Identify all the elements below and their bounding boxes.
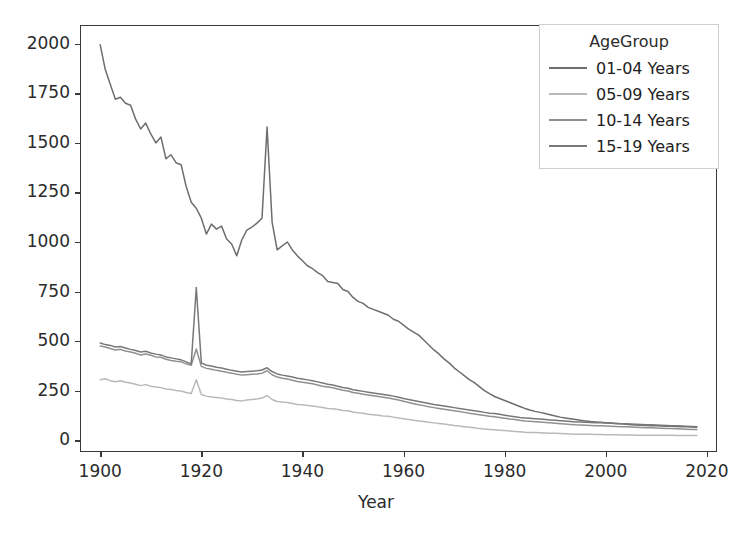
legend-item: 05-09 Years	[549, 81, 709, 107]
line-series-3	[100, 288, 697, 427]
figure-title	[0, 0, 752, 6]
x-tick-label: 1960	[364, 461, 444, 481]
legend-item-label: 10-14 Years	[596, 111, 690, 130]
x-tick-mark	[302, 452, 303, 457]
y-tick-label: 500	[0, 330, 70, 350]
y-tick-mark	[75, 192, 80, 193]
y-tick-label: 1250	[0, 181, 70, 201]
y-tick-label: 0	[0, 429, 70, 449]
x-tick-label: 1940	[262, 461, 342, 481]
y-tick-mark	[75, 93, 80, 94]
x-tick-mark	[707, 452, 708, 457]
x-tick-mark	[201, 452, 202, 457]
x-tick-mark	[100, 452, 101, 457]
y-tick-mark	[75, 242, 80, 243]
legend-item-label: 05-09 Years	[596, 85, 690, 104]
legend-item-label: 15-19 Years	[596, 137, 690, 156]
y-tick-mark	[75, 341, 80, 342]
legend-item-label: 01-04 Years	[596, 59, 690, 78]
y-tick-label: 1500	[0, 132, 70, 152]
y-tick-mark	[75, 440, 80, 441]
chart-legend: AgeGroup 01-04 Years05-09 Years10-14 Yea…	[539, 24, 719, 169]
x-tick-mark	[505, 452, 506, 457]
y-tick-mark	[75, 143, 80, 144]
legend-line-swatch	[549, 93, 587, 95]
legend-item: 10-14 Years	[549, 107, 709, 133]
chart-figure: 025050075010001250150017502000 190019201…	[0, 0, 752, 534]
x-tick-label: 2000	[566, 461, 646, 481]
line-series-1	[100, 379, 697, 436]
legend-line-swatch	[549, 119, 587, 121]
y-tick-label: 1750	[0, 82, 70, 102]
y-tick-label: 1000	[0, 231, 70, 251]
x-tick-label: 1980	[465, 461, 545, 481]
legend-line-swatch	[549, 67, 587, 69]
x-tick-label: 2020	[667, 461, 747, 481]
x-tick-label: 1920	[161, 461, 241, 481]
y-tick-mark	[75, 292, 80, 293]
legend-item: 01-04 Years	[549, 55, 709, 81]
legend-line-swatch	[549, 145, 587, 147]
legend-item: 15-19 Years	[549, 133, 709, 159]
y-tick-label: 750	[0, 281, 70, 301]
x-tick-mark	[606, 452, 607, 457]
legend-entries: 01-04 Years05-09 Years10-14 Years15-19 Y…	[549, 55, 709, 159]
x-tick-mark	[404, 452, 405, 457]
y-tick-label: 250	[0, 380, 70, 400]
x-tick-label: 1900	[60, 461, 140, 481]
y-tick-label: 2000	[0, 33, 70, 53]
y-tick-mark	[75, 391, 80, 392]
line-series-2	[100, 346, 697, 430]
legend-title: AgeGroup	[549, 32, 709, 51]
x-axis-label: Year	[0, 492, 752, 512]
y-tick-mark	[75, 44, 80, 45]
